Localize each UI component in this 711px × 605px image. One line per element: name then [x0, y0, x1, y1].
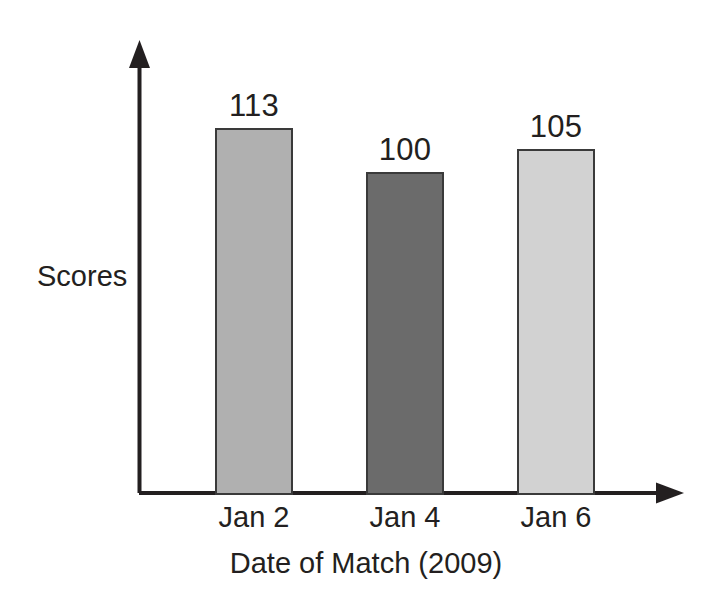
x-axis-title: Date of Match (2009) — [186, 549, 546, 578]
x-tick-label-jan-6: Jan 6 — [496, 503, 616, 532]
bar-jan-2 — [215, 128, 293, 495]
bar-value-label-jan-6: 105 — [506, 111, 606, 142]
bar-chart-figure: 113 100 105 Jan 2 Jan 4 Jan 6 Date of Ma… — [0, 0, 711, 605]
bar-value-label-jan-4: 100 — [355, 134, 455, 165]
bar-jan-4 — [366, 172, 444, 495]
x-axis-arrow-icon — [656, 483, 684, 504]
x-tick-label-jan-4: Jan 4 — [345, 503, 465, 532]
x-tick-label-jan-2: Jan 2 — [194, 503, 314, 532]
y-axis-title: Scores — [37, 262, 127, 291]
bar-value-label-jan-2: 113 — [204, 90, 304, 121]
y-axis-arrow-icon — [129, 40, 150, 68]
bar-jan-6 — [517, 149, 595, 495]
